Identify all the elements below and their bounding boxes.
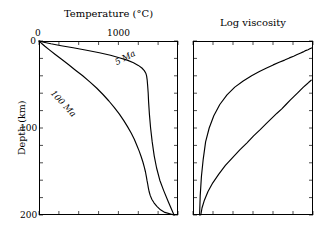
right-panel-title: Log viscosity <box>193 17 313 28</box>
left-yaxis-tick-label-200: 200 <box>20 210 36 220</box>
left-plot-area <box>39 41 178 215</box>
left-yaxis-title: Depth (km) <box>16 101 27 155</box>
figure-root: Temperature (°C) 0 1000 0 100 200 Depth … <box>0 0 330 231</box>
right-plot-area <box>193 41 313 215</box>
left-yaxis-tick-label-0: 0 <box>28 36 36 46</box>
left-panel-title: Temperature (°C) <box>39 8 178 19</box>
left-xaxis-tick-label-1000: 1000 <box>107 28 130 38</box>
